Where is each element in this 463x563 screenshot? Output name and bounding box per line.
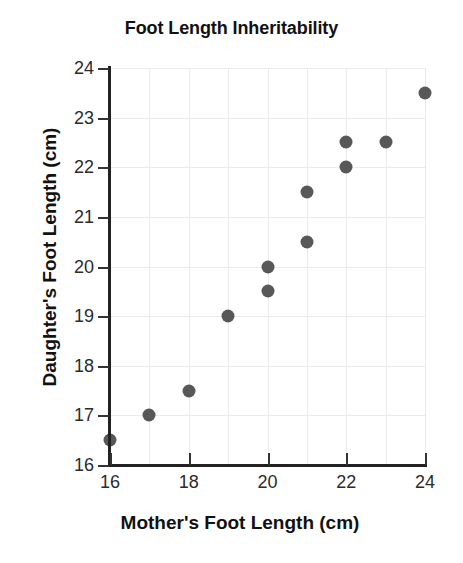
data-point xyxy=(419,86,432,99)
y-axis-tick xyxy=(98,267,109,269)
gridline-vertical xyxy=(307,68,308,465)
x-axis-tick xyxy=(346,453,348,465)
y-axis-tick xyxy=(98,465,109,467)
x-axis-tick-label: 18 xyxy=(167,473,211,491)
data-point xyxy=(182,384,195,397)
y-axis-tick-label: 16 xyxy=(50,456,94,474)
plot-area xyxy=(110,68,425,465)
y-axis-tick-label: 19 xyxy=(50,307,94,325)
y-axis-tick-label: 20 xyxy=(50,258,94,276)
gridline-vertical xyxy=(386,68,387,465)
gridline-vertical xyxy=(228,68,229,465)
data-point xyxy=(379,136,392,149)
y-axis-tick xyxy=(98,118,109,120)
x-axis-tick-label: 24 xyxy=(403,473,447,491)
scatter-chart-figure: Foot Length Inheritability Daughter's Fo… xyxy=(0,0,463,563)
gridline-vertical xyxy=(425,68,426,465)
x-axis-tick xyxy=(189,453,191,465)
data-point xyxy=(340,161,353,174)
data-point xyxy=(222,310,235,323)
gridline-vertical xyxy=(189,68,190,465)
gridline-vertical xyxy=(346,68,347,465)
x-axis-tick xyxy=(425,453,427,465)
y-axis-tick xyxy=(98,366,109,368)
y-axis-tick-label: 22 xyxy=(50,158,94,176)
y-axis-tick xyxy=(98,68,109,70)
data-point xyxy=(261,260,274,273)
x-axis-tick xyxy=(110,453,112,465)
x-axis-label: Mother's Foot Length (cm) xyxy=(40,512,440,534)
data-point xyxy=(340,136,353,149)
x-axis-tick-label: 16 xyxy=(88,473,132,491)
page-title: Foot Length Inheritability xyxy=(0,18,463,39)
y-axis-tick xyxy=(98,415,109,417)
data-point xyxy=(300,186,313,199)
gridline-vertical xyxy=(149,68,150,465)
data-point xyxy=(261,285,274,298)
data-point xyxy=(143,409,156,422)
y-axis-tick-label: 18 xyxy=(50,357,94,375)
x-axis-tick xyxy=(268,453,270,465)
y-axis-tick-label: 17 xyxy=(50,406,94,424)
y-axis-tick-label: 23 xyxy=(50,109,94,127)
y-axis-tick xyxy=(98,167,109,169)
x-axis-tick-label: 22 xyxy=(324,473,368,491)
y-axis-tick xyxy=(98,316,109,318)
data-point xyxy=(300,235,313,248)
y-axis-tick-label: 24 xyxy=(50,59,94,77)
y-axis-tick-label: 21 xyxy=(50,208,94,226)
y-axis-tick xyxy=(98,217,109,219)
x-axis-tick-label: 20 xyxy=(246,473,290,491)
